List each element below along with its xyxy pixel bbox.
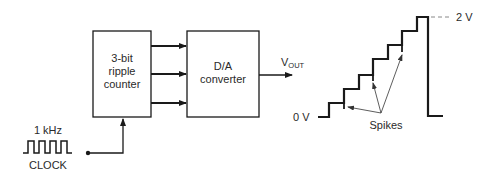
counter-label-2: ripple [109,65,136,77]
spikes-label: Spikes [369,119,403,131]
staircase-waveform: 2 V 0 V Spikes [293,11,473,131]
counter-to-dac-bus [151,46,186,103]
clock-waveform-icon [23,141,72,153]
spike-pointers [348,55,402,113]
clock-to-counter-line [88,119,123,153]
counter-label-3: counter [104,78,141,90]
clock-label: CLOCK [29,159,68,171]
vout-output: VOUT [259,56,305,75]
dac-block: D/A converter [187,31,259,117]
vout-label: VOUT [281,56,305,70]
counter-dac-diagram: 3-bit ripple counter D/A converter VOUT … [0,0,494,177]
low-voltage-label: 0 V [293,111,310,123]
clock-frequency: 1 kHz [34,124,62,136]
high-voltage-label: 2 V [456,11,473,23]
counter-label-1: 3-bit [111,52,132,64]
clock-source: 1 kHz CLOCK [23,119,123,171]
ripple-counter-block: 3-bit ripple counter [93,31,151,117]
dac-label-2: converter [200,73,246,85]
dac-label-1: D/A [214,60,233,72]
